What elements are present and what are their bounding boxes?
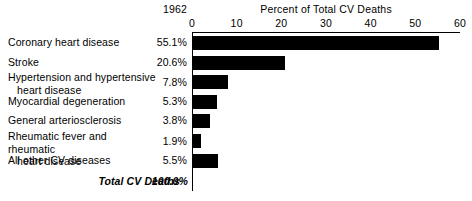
bar xyxy=(193,56,285,70)
category-label-line1: Rheumatic fever and rheumatic xyxy=(8,130,107,155)
value-label: 55.1% xyxy=(140,36,187,49)
total-row: Total CV Deaths 100.0% xyxy=(0,175,472,189)
bar xyxy=(193,134,201,148)
bar xyxy=(193,75,228,89)
value-label: 5.3% xyxy=(140,95,187,108)
axis-top-rule xyxy=(192,32,460,33)
x-tick-40: 40 xyxy=(365,17,377,30)
value-label: 3.8% xyxy=(140,114,187,127)
value-label: 20.6% xyxy=(140,56,187,69)
bar-row: Hypertension and hypertensiveheart disea… xyxy=(0,75,472,93)
x-tick-0: 0 xyxy=(189,17,195,30)
chart-page: 1962 Percent of Total CV Deaths 01020304… xyxy=(0,0,472,201)
category-label: General arteriosclerosis xyxy=(8,114,156,127)
total-value: 100.0% xyxy=(140,175,188,188)
category-label-line1: General arteriosclerosis xyxy=(8,114,121,126)
x-tick-50: 50 xyxy=(409,17,421,30)
bar xyxy=(193,95,217,109)
x-tick-60: 60 xyxy=(454,17,466,30)
bar-row: Rheumatic fever and rheumaticheart disea… xyxy=(0,134,472,152)
category-label-line1: Stroke xyxy=(8,56,39,68)
category-label-line1: All other CV diseases xyxy=(8,154,110,166)
bar xyxy=(193,154,218,168)
x-tick-10: 10 xyxy=(231,17,243,30)
category-label: Myocardial degeneration xyxy=(8,95,156,108)
axis-title: Percent of Total CV Deaths xyxy=(192,3,460,15)
value-label: 1.9% xyxy=(140,135,187,148)
x-axis-tick-labels: 0102030405060 xyxy=(0,17,472,31)
category-label: Stroke xyxy=(8,56,156,69)
bar-row: Myocardial degeneration5.3% xyxy=(0,95,472,113)
x-tick-30: 30 xyxy=(320,17,332,30)
category-label: Hypertension and hypertensiveheart disea… xyxy=(8,71,156,96)
category-label: All other CV diseases xyxy=(8,154,156,167)
value-label: 7.8% xyxy=(140,76,187,89)
value-label: 5.5% xyxy=(140,154,187,167)
x-tick-20: 20 xyxy=(275,17,287,30)
bar xyxy=(193,114,210,128)
bar-row: Coronary heart disease55.1% xyxy=(0,36,472,54)
category-label: Coronary heart disease xyxy=(8,36,156,49)
bar xyxy=(193,36,439,50)
category-label-line1: Myocardial degeneration xyxy=(8,95,125,107)
year-label: 1962 xyxy=(163,3,187,15)
bar-row: All other CV diseases5.5% xyxy=(0,154,472,172)
category-label-line1: Coronary heart disease xyxy=(8,36,119,48)
category-label-line1: Hypertension and hypertensive xyxy=(8,71,156,83)
